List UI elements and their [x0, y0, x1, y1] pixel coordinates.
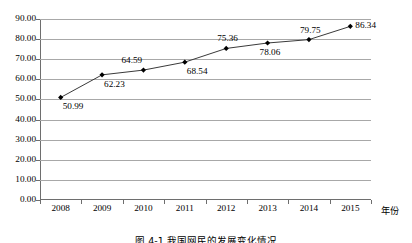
data-point-marker [58, 95, 63, 100]
x-axis-tick [40, 200, 41, 204]
data-point-label: 62.23 [104, 80, 125, 89]
figure-caption: 图 4-1 我国网民的发展变化情况 [0, 233, 412, 243]
data-point-label: 64.59 [121, 56, 142, 65]
y-axis-tick-label: 60.00 [0, 75, 36, 84]
x-axis-tick [288, 200, 289, 204]
y-axis-tick-labels: 0.0010.0020.0030.0040.0050.0060.0070.008… [0, 19, 36, 200]
y-axis-tick-label: 30.00 [0, 135, 36, 144]
y-axis-tick-label: 0.00 [0, 195, 36, 204]
y-axis-tick-label: 70.00 [0, 55, 36, 64]
data-point-marker [99, 72, 104, 77]
x-axis-tick [371, 200, 372, 204]
data-point-marker [224, 46, 229, 51]
x-axis-title: 年份 [381, 203, 399, 217]
data-point-label: 50.99 [63, 102, 84, 111]
data-point-label: 75.36 [217, 34, 238, 43]
x-axis-tick [247, 200, 248, 204]
data-point-marker [306, 37, 311, 42]
y-axis-tick-label: 90.00 [0, 14, 36, 23]
x-axis-tick-label: 2008 [52, 204, 70, 213]
x-axis-tick-label: 2009 [93, 204, 111, 213]
plot-area [40, 19, 371, 200]
x-axis-tick-label: 2013 [258, 204, 276, 213]
data-point-marker [348, 24, 353, 29]
y-axis-tick-label: 80.00 [0, 35, 36, 44]
x-axis-tick [206, 200, 207, 204]
x-axis-tick-label: 2011 [176, 204, 194, 213]
data-point-label: 79.75 [300, 26, 321, 35]
chart-page: 0.0010.0020.0030.0040.0050.0060.0070.008… [0, 0, 412, 243]
y-axis-tick-label: 50.00 [0, 95, 36, 104]
y-axis-tick-label: 10.00 [0, 175, 36, 184]
data-point-marker [182, 60, 187, 65]
x-axis-tick [81, 200, 82, 204]
data-point-marker [265, 40, 270, 45]
x-axis-tick [164, 200, 165, 204]
x-axis-tick-label: 2014 [300, 204, 318, 213]
data-point-label: 68.54 [187, 67, 208, 76]
x-axis-tick [123, 200, 124, 204]
y-axis-tick-label: 40.00 [0, 115, 36, 124]
x-axis-tick-label: 2010 [134, 204, 152, 213]
data-point-label: 78.06 [260, 48, 281, 57]
x-axis-tick-label: 2015 [341, 204, 359, 213]
y-axis-tick-label: 20.00 [0, 155, 36, 164]
x-axis-tick-label: 2012 [217, 204, 235, 213]
data-point-marker [141, 68, 146, 73]
data-point-label: 86.34 [355, 21, 376, 30]
x-axis-tick [330, 200, 331, 204]
data-series [40, 19, 371, 200]
